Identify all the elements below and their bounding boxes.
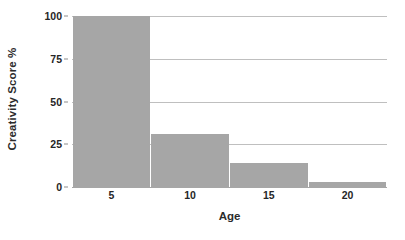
y-tick-label-75: 75 <box>50 53 62 65</box>
bar-chart: Creativity Score % 0255075100 5101520 Ag… <box>0 0 405 240</box>
y-tick-mark-0 <box>64 187 68 188</box>
bar-20 <box>309 182 387 187</box>
bar-5 <box>73 16 151 187</box>
x-tick-label-10: 10 <box>184 189 196 201</box>
x-axis-tick-labels: 5101520 <box>72 189 387 207</box>
y-axis-title: Creativity Score % <box>0 0 24 198</box>
x-axis-title: Age <box>72 210 387 222</box>
bars-group <box>72 16 387 187</box>
y-tick-label-100: 100 <box>44 10 62 22</box>
y-tick-mark-50 <box>64 101 68 102</box>
y-tick-mark-25 <box>64 144 68 145</box>
bar-15 <box>230 163 308 187</box>
bar-10 <box>151 134 229 187</box>
y-tick-mark-75 <box>64 58 68 59</box>
y-tick-label-50: 50 <box>50 96 62 108</box>
y-tick-label-25: 25 <box>50 138 62 150</box>
y-tick-label-0: 0 <box>56 181 62 193</box>
x-tick-label-15: 15 <box>263 189 275 201</box>
y-tick-mark-100 <box>64 16 68 17</box>
y-axis-tick-labels: 0255075100 <box>24 0 68 198</box>
plot-area <box>72 16 387 187</box>
x-tick-label-20: 20 <box>342 189 354 201</box>
x-axis-title-label: Age <box>219 210 241 222</box>
y-axis-title-label: Creativity Score % <box>6 48 18 151</box>
gridline-0 <box>72 187 387 188</box>
x-tick-label-5: 5 <box>108 189 114 201</box>
